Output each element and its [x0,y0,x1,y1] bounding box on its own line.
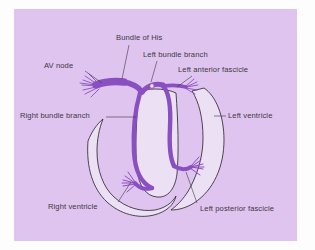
left-anterior-fascicle [163,85,186,87]
label-right-bundle-branch: Right bundle branch [20,112,90,120]
leader-right-ventricle [118,182,131,202]
label-right-ventricle: Right ventricle [48,203,98,211]
left-posterior-fascicle [174,166,191,169]
label-av-node: AV node [44,62,73,70]
diagram-page: Bundle of His Left bundle branch Left an… [0,0,315,250]
label-left-anterior-fascicle: Left anterior fascicle [178,66,248,74]
label-left-posterior-fascicle: Left posterior fascicle [200,205,274,213]
right-bundle-purkinje-fibers [122,172,136,192]
leader-bundle-of-his [122,45,129,79]
left-ventricle-wall [171,88,224,210]
myocardium-group [88,88,224,216]
leader-left-bundle-branch [151,61,157,82]
label-left-bundle-branch: Left bundle branch [143,51,208,59]
label-left-ventricle: Left ventricle [228,112,272,120]
bundle-of-his [122,82,142,92]
label-bundle-of-his: Bundle of His [116,34,162,42]
bundle-division-point [150,84,155,89]
